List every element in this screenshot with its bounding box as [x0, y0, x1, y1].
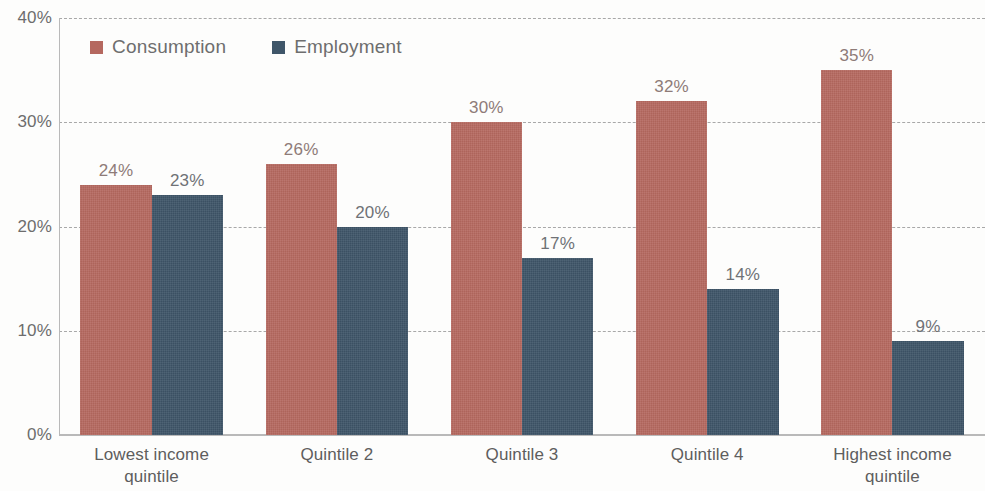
x-axis-category-label-line: Quintile 4 — [615, 444, 800, 466]
bar-column-consumption: 32% — [636, 18, 707, 435]
bar-column-employment: 23% — [152, 18, 223, 435]
y-axis-tick-label: 0% — [0, 425, 52, 445]
bar-column-employment: 17% — [522, 18, 593, 435]
y-axis-tick-label: 10% — [0, 321, 52, 341]
bar-group-bars: 24%23% — [59, 18, 244, 435]
bar-employment[interactable] — [707, 289, 778, 435]
bar-value-label: 24% — [80, 161, 151, 181]
bar-chart: 0%10%20%30%40% 24%23%26%20%30%17%32%14%3… — [0, 0, 985, 491]
bar-value-label: 26% — [266, 140, 337, 160]
bar-value-label: 35% — [821, 46, 892, 66]
bar-column-consumption: 24% — [80, 18, 151, 435]
bar-group-bars: 32%14% — [615, 18, 800, 435]
bar-employment[interactable] — [337, 227, 408, 436]
bar-value-label: 23% — [152, 171, 223, 191]
y-axis-tick-labels: 0%10%20%30%40% — [0, 18, 52, 435]
legend-item-employment[interactable]: Employment — [272, 36, 402, 58]
bar-group: 26%20% — [244, 18, 429, 435]
x-axis-category-label: Highest incomequintile — [800, 441, 985, 491]
bar-consumption[interactable] — [636, 101, 707, 435]
bar-groups: 24%23%26%20%30%17%32%14%35%9% — [59, 18, 985, 435]
bar-column-consumption: 30% — [451, 18, 522, 435]
x-axis-category-label: Quintile 2 — [244, 441, 429, 491]
bar-value-label: 32% — [636, 77, 707, 97]
bar-group: 24%23% — [59, 18, 244, 435]
bar-consumption[interactable] — [451, 122, 522, 435]
x-axis-category-label: Lowest incomequintile — [59, 441, 244, 491]
bar-group-bars: 30%17% — [429, 18, 614, 435]
legend-item-consumption[interactable]: Consumption — [90, 36, 226, 58]
bar-consumption[interactable] — [266, 164, 337, 435]
y-axis-tick-label: 40% — [0, 8, 52, 28]
y-axis-tick-label: 20% — [0, 217, 52, 237]
bar-value-label: 14% — [707, 265, 778, 285]
bar-employment[interactable] — [522, 258, 593, 435]
legend-swatch-icon — [272, 41, 285, 54]
bar-column-consumption: 35% — [821, 18, 892, 435]
x-axis-category-label-line: Highest income — [800, 444, 985, 466]
x-axis-category-label: Quintile 3 — [429, 441, 614, 491]
bar-group: 32%14% — [615, 18, 800, 435]
bar-column-employment: 14% — [707, 18, 778, 435]
bar-column-employment: 20% — [337, 18, 408, 435]
x-axis-category-label: Quintile 4 — [615, 441, 800, 491]
bar-group-bars: 35%9% — [800, 18, 985, 435]
bar-group-bars: 26%20% — [244, 18, 429, 435]
bar-column-consumption: 26% — [266, 18, 337, 435]
y-axis-tick-label: 30% — [0, 112, 52, 132]
bar-value-label: 9% — [892, 317, 963, 337]
x-axis-category-label-line: Quintile 3 — [429, 444, 614, 466]
x-axis-category-label-line: Lowest income — [59, 444, 244, 466]
x-axis-category-labels: Lowest incomequintileQuintile 2Quintile … — [59, 441, 985, 491]
bar-group: 30%17% — [429, 18, 614, 435]
bar-consumption[interactable] — [821, 70, 892, 435]
bar-value-label: 30% — [451, 98, 522, 118]
bar-value-label: 17% — [522, 234, 593, 254]
x-axis-category-label-line: quintile — [800, 466, 985, 488]
bar-group: 35%9% — [800, 18, 985, 435]
legend-label: Consumption — [112, 36, 226, 58]
gridline — [59, 435, 985, 436]
x-axis-category-label-line: quintile — [59, 466, 244, 488]
bar-employment[interactable] — [152, 195, 223, 435]
legend-swatch-icon — [90, 41, 103, 54]
bar-column-employment: 9% — [892, 18, 963, 435]
x-axis-category-label-line: Quintile 2 — [244, 444, 429, 466]
chart-legend: ConsumptionEmployment — [90, 36, 402, 58]
bar-employment[interactable] — [892, 341, 963, 435]
bar-value-label: 20% — [337, 203, 408, 223]
legend-label: Employment — [294, 36, 402, 58]
bar-consumption[interactable] — [80, 185, 151, 435]
